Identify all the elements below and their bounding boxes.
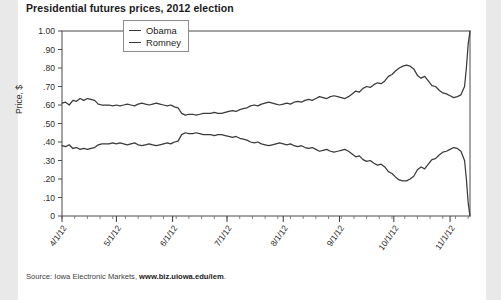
- chart-legend: Obama Romney: [123, 20, 189, 52]
- source-url: www.biz.uiowa.edu/iem: [139, 272, 224, 281]
- legend-swatch-obama: [129, 30, 141, 31]
- x-tick-label: 7/1/12: [212, 223, 234, 248]
- source-note: Source: Iowa Electronic Markets, www.biz…: [26, 272, 226, 281]
- legend-item-obama: Obama: [129, 24, 181, 36]
- plot-frame: [62, 31, 470, 216]
- chart-screenshot: Presidential futures prices, 2012 electi…: [0, 0, 501, 300]
- page-title: Presidential futures prices, 2012 electi…: [26, 2, 234, 14]
- y-tick-label: .70: [43, 82, 55, 92]
- y-tick-label: .30: [43, 156, 55, 166]
- x-tick-label: 5/1/12: [101, 223, 123, 248]
- x-tick-label: 9/1/12: [325, 223, 347, 248]
- x-tick-label: 6/1/12: [158, 223, 180, 248]
- y-tick-label: .60: [43, 100, 55, 110]
- x-tick-label: 4/1/12: [47, 223, 69, 248]
- legend-label-obama: Obama: [146, 25, 177, 36]
- y-axis-label: Price, $: [14, 85, 24, 114]
- y-tick-label: .20: [43, 174, 55, 184]
- legend-label-romney: Romney: [146, 37, 181, 48]
- source-suffix: .: [224, 272, 226, 281]
- x-tick-label: 10/1/12: [376, 223, 400, 252]
- y-tick-label: .50: [43, 119, 55, 129]
- y-tick-label: 0: [50, 211, 55, 221]
- legend-item-romney: Romney: [129, 36, 181, 48]
- x-tick-label: 8/1/12: [268, 223, 290, 248]
- chart-card: Presidential futures prices, 2012 electi…: [18, 0, 486, 300]
- source-prefix: Source: Iowa Electronic Markets,: [26, 272, 139, 281]
- legend-swatch-romney: [129, 42, 141, 43]
- y-tick-label: .10: [43, 193, 55, 203]
- line-chart: 1.00.90.80.70.60.50.40.30.20.1004/1/125/…: [18, 18, 486, 263]
- chart-plot-area: Price, $ 1.00.90.80.70.60.50.40.30.20.10…: [18, 18, 486, 263]
- y-tick-label: .90: [43, 45, 55, 55]
- series-line-romney: [62, 133, 470, 216]
- y-tick-label: 1.00: [38, 26, 55, 36]
- y-tick-label: .80: [43, 63, 55, 73]
- y-tick-label: .40: [43, 137, 55, 147]
- x-tick-label: 11/1/12: [433, 223, 457, 251]
